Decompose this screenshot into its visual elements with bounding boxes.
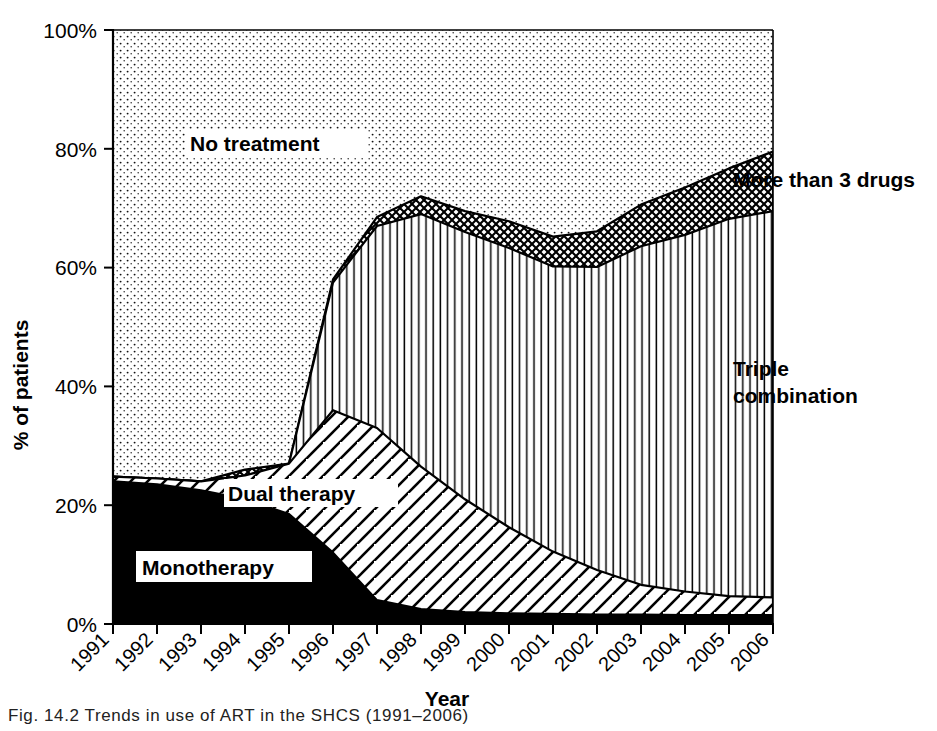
label-monotherapy: Monotherapy <box>142 556 274 579</box>
label-triple-combination-line2: combination <box>733 384 858 407</box>
x-tick-label-2005: 2005 <box>682 628 729 675</box>
plot-area <box>113 30 773 624</box>
figure-root: 0% 20% 40% 60% 80% 100% 1991 1992 1993 1… <box>0 0 937 731</box>
x-tick-label-1997: 1997 <box>330 628 377 675</box>
x-tick-label-1995: 1995 <box>242 628 289 675</box>
x-tick-label-2004: 2004 <box>638 628 685 675</box>
x-tick-label-1998: 1998 <box>374 628 421 675</box>
figure-caption-text: Fig. 14.2 Trends in use of ART in the SH… <box>8 706 708 726</box>
area-chart: 0% 20% 40% 60% 80% 100% 1991 1992 1993 1… <box>0 0 937 731</box>
y-tick-label-20: 20% <box>55 494 97 517</box>
x-tick-label-2006: 2006 <box>726 628 773 675</box>
x-tick-label-2002: 2002 <box>550 628 597 675</box>
x-tick-labels: 1991 1992 1993 1994 1995 1996 1997 1998 … <box>66 628 773 675</box>
x-tick-label-1992: 1992 <box>110 628 157 675</box>
label-more-than-3-drugs: More than 3 drugs <box>733 168 915 191</box>
y-tick-labels: 0% 20% 40% 60% 80% 100% <box>43 19 97 636</box>
x-tick-label-1993: 1993 <box>154 628 201 675</box>
label-no-treatment: No treatment <box>190 132 320 155</box>
x-tick-label-1994: 1994 <box>198 628 245 675</box>
x-tick-label-1996: 1996 <box>286 628 333 675</box>
label-triple-combination-line1: Triple <box>733 357 789 380</box>
y-tick-label-60: 60% <box>55 256 97 279</box>
x-tick-label-1999: 1999 <box>418 628 465 675</box>
x-tick-label-2003: 2003 <box>594 628 641 675</box>
y-tick-label-40: 40% <box>55 375 97 398</box>
label-dual-therapy: Dual therapy <box>228 482 356 505</box>
x-tick-label-2001: 2001 <box>506 628 553 675</box>
y-axis-title: % of patients <box>9 320 32 451</box>
y-tick-label-100: 100% <box>43 19 97 42</box>
x-tick-label-2000: 2000 <box>462 628 509 675</box>
figure-caption: Fig. 14.2 Trends in use of ART in the SH… <box>8 706 708 731</box>
y-tick-label-80: 80% <box>55 138 97 161</box>
